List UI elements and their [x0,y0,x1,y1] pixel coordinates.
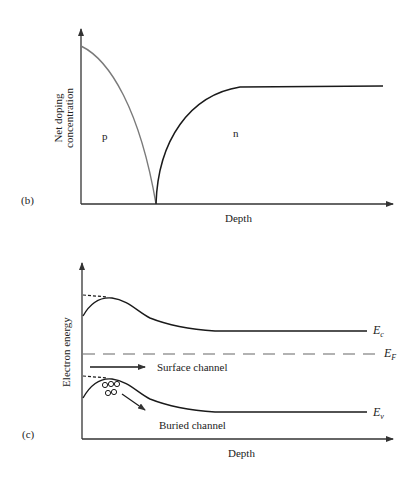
panel-c-tag: (c) [22,428,35,441]
valence-band-dashed [83,376,108,378]
panel-c-band-diagram: Surface channel Buried channel Ec EF Ev … [22,263,396,459]
region-n-label: n [233,127,239,139]
ef-label: EF [383,346,396,362]
y-axis-b-label-line2: concentration [63,88,75,148]
buried-channel-arrow [122,394,145,410]
region-p-label: p [102,130,108,142]
diagram-canvas: p n (b) Depth Net doping concentration [0,0,415,477]
x-axis-b-label: Depth [225,212,252,224]
panel-b-doping-profile: p n (b) Depth Net doping concentration [21,29,393,224]
conduction-band-curve [83,298,367,331]
conduction-band-dashed [83,295,108,297]
x-axis-c-label: Depth [228,447,255,459]
ec-label: Ec [372,323,384,339]
valence-band-curve [83,379,367,412]
ev-label: Ev [372,405,384,421]
y-axis-c-label: Electron energy [60,317,72,387]
surface-channel-label: Surface channel [157,361,228,373]
electron-circles-icon [102,381,119,395]
panel-b-tag: (b) [21,194,34,207]
n-doping-curve [156,86,383,204]
buried-channel-label: Buried channel [159,419,226,431]
p-doping-curve [81,46,156,204]
